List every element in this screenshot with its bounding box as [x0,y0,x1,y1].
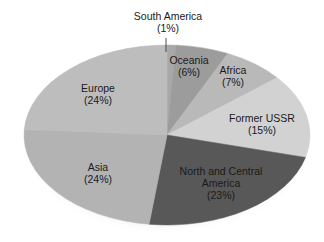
label-asia-value: (24%) [84,173,112,185]
label-europe-value: (24%) [81,94,115,106]
label-north-central-america-name1: North and Central [180,165,263,177]
label-oceania-value: (6%) [169,66,208,78]
label-former-ussr-name: Former USSR [229,112,295,124]
label-former-ussr-value: (15%) [229,124,295,136]
label-africa: Africa (7%) [220,64,247,88]
label-europe-name: Europe [81,82,115,94]
label-africa-name: Africa [220,64,247,76]
label-oceania: Oceania (6%) [169,54,208,78]
label-asia-name: Asia [84,161,112,173]
label-south-america-value: (1%) [134,22,202,34]
label-europe: Europe (24%) [81,82,115,106]
label-north-central-america-value: (23%) [180,189,263,201]
label-south-america: South America (1%) [134,10,202,34]
label-asia: Asia (24%) [84,161,112,185]
label-north-central-america: North and Central America (23%) [180,165,263,201]
label-south-america-name: South America [134,10,202,22]
label-africa-value: (7%) [220,76,247,88]
label-oceania-name: Oceania [169,54,208,66]
label-north-central-america-name2: America [180,177,263,189]
label-former-ussr: Former USSR (15%) [229,112,295,136]
